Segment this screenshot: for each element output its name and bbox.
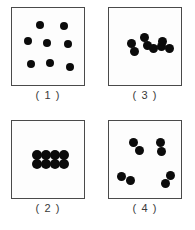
- dot: [157, 147, 166, 156]
- dot: [156, 138, 165, 147]
- panel-4-label: ( 4 ): [108, 202, 182, 214]
- panel-2-box: [11, 120, 85, 199]
- dot: [59, 159, 69, 169]
- dot: [36, 21, 44, 29]
- panel-1-box: [11, 7, 85, 86]
- panel-3-box: [108, 7, 182, 86]
- dot: [66, 63, 74, 71]
- panel-1-label: ( 1 ): [11, 89, 85, 101]
- dot: [46, 59, 54, 67]
- dot: [135, 146, 144, 155]
- dot: [161, 179, 170, 188]
- panel-4-box: [108, 120, 182, 199]
- dot: [24, 37, 32, 45]
- dot: [129, 138, 138, 147]
- panel-3-label: ( 3 ): [108, 89, 182, 101]
- panel-2-label: ( 2 ): [11, 202, 85, 214]
- dot-grouping-figure: ( 1 ) ( 3 ) ( 2 ) ( 4 ): [0, 0, 195, 230]
- dot: [60, 22, 68, 30]
- dot: [43, 39, 51, 47]
- dot: [126, 176, 135, 185]
- dot: [117, 172, 126, 181]
- dot: [27, 60, 35, 68]
- dot: [166, 171, 175, 180]
- dot: [165, 44, 174, 53]
- dot: [130, 47, 139, 56]
- dot: [158, 37, 167, 46]
- dot: [64, 40, 72, 48]
